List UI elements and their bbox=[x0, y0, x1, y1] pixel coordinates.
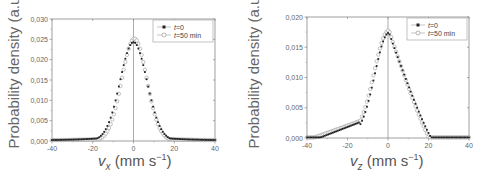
y-tick-label: 0,010 bbox=[285, 74, 303, 81]
legend-label: t=0 bbox=[174, 24, 184, 31]
legend-label: t=0 bbox=[428, 22, 438, 29]
x-tick-label: 40 bbox=[465, 142, 473, 149]
y-tick-label: 0,005 bbox=[285, 104, 303, 111]
x-tick-label: -40 bbox=[47, 145, 57, 152]
x-axis-sub: x bbox=[106, 161, 111, 172]
y-tick-label: 0,000 bbox=[285, 135, 303, 142]
y-tick-label: 0,030 bbox=[30, 16, 48, 23]
y-axis-label: Probability density (a.u.) bbox=[5, 11, 22, 149]
y-axis-label: Probability density (a.u.) bbox=[245, 11, 262, 149]
legend: t=0t=50 min bbox=[407, 18, 467, 40]
x-tick-label: 40 bbox=[211, 145, 219, 152]
x-tick-label: 0 bbox=[132, 145, 136, 152]
legend-label: t=50 min bbox=[428, 30, 455, 37]
chart-vx: 0,0000,0050,0100,0150,0200,0250,030-40-2… bbox=[0, 0, 240, 180]
x-axis-label: vx (mm s−1) bbox=[98, 152, 172, 172]
y-tick-label: 0,015 bbox=[285, 44, 303, 51]
y-tick-label: 0,020 bbox=[30, 56, 48, 63]
x-axis-var: v bbox=[350, 152, 358, 169]
x-axis-sub: z bbox=[358, 161, 363, 172]
x-axis-exp: −1 bbox=[156, 152, 166, 162]
chart-vz: 0,0000,0050,0100,0150,020-40-2002040t=0t… bbox=[240, 0, 478, 180]
x-tick-label: -20 bbox=[88, 145, 98, 152]
legend-label: t=50 min bbox=[174, 32, 201, 39]
y-tick-label: 0,025 bbox=[30, 36, 48, 43]
x-axis-label: vz (mm s−1) bbox=[350, 152, 424, 172]
legend-circle-icon bbox=[162, 33, 166, 37]
y-tick-label: 0,000 bbox=[30, 138, 48, 145]
legend-square-icon bbox=[163, 26, 166, 29]
y-tick-label: 0,020 bbox=[285, 14, 303, 21]
x-tick-label: -20 bbox=[342, 142, 352, 149]
y-tick-label: 0,015 bbox=[30, 77, 48, 84]
x-axis-close: ) bbox=[167, 152, 172, 169]
legend-square-icon bbox=[417, 24, 420, 27]
x-tick-label: 0 bbox=[386, 142, 390, 149]
legend-circle-icon bbox=[416, 31, 420, 35]
y-tick-label: 0,005 bbox=[30, 117, 48, 124]
x-axis-exp: −1 bbox=[408, 152, 418, 162]
x-tick-label: -40 bbox=[302, 142, 312, 149]
x-tick-label: 20 bbox=[170, 145, 178, 152]
x-axis-close: ) bbox=[419, 152, 424, 169]
x-axis-var: v bbox=[98, 152, 106, 169]
x-axis-units: (mm s bbox=[367, 152, 409, 169]
y-tick-label: 0,010 bbox=[30, 97, 48, 104]
x-tick-label: 20 bbox=[425, 142, 433, 149]
legend: t=0t=50 min bbox=[153, 20, 213, 42]
x-axis-units: (mm s bbox=[115, 152, 157, 169]
